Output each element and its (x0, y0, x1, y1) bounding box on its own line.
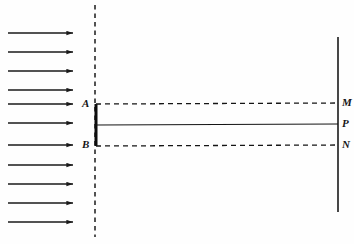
label-point-n: N (342, 139, 350, 150)
label-point-p: P (342, 118, 349, 129)
ray-group (96, 103, 338, 146)
label-point-b: B (82, 139, 89, 150)
incident-plane-wave-arrows (8, 33, 73, 222)
diffraction-diagram: A B M P N (0, 0, 354, 244)
label-point-a: A (82, 98, 89, 109)
ray-A-to-M (96, 103, 338, 104)
label-point-m: M (342, 97, 352, 108)
diagram-canvas (0, 0, 354, 244)
ray-B-to-N (96, 145, 338, 146)
ray-center-to-P (96, 124, 338, 125)
